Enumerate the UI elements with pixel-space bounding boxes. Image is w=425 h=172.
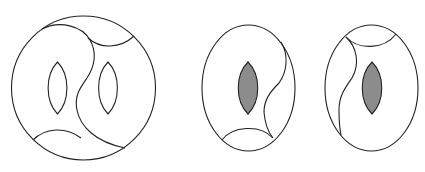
figure-1 xyxy=(12,16,156,160)
figure-1-outer-circle xyxy=(12,16,156,160)
figure-2-filled-lens xyxy=(238,62,258,114)
figure-3-filled-lens xyxy=(362,62,382,114)
figure-1-right-lens xyxy=(99,62,118,114)
figure-1-top-cap-arc xyxy=(88,36,134,46)
figure-3-s-curve xyxy=(339,37,357,135)
diagram-canvas xyxy=(0,0,425,172)
figure-1-bottom-cap-arc xyxy=(33,130,81,140)
figure-1-left-lens xyxy=(48,62,67,114)
figure-3-top-cap-arc xyxy=(346,34,396,46)
figure-2 xyxy=(202,25,295,151)
figure-3 xyxy=(325,25,418,151)
figure-2-s-curve xyxy=(264,42,286,138)
figure-2-bottom-cap-arc xyxy=(222,128,273,140)
